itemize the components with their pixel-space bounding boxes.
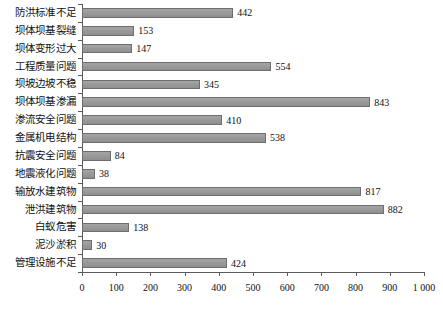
- bar-value-label: 817: [365, 184, 380, 199]
- bar: [82, 115, 222, 125]
- x-axis-tick: [150, 272, 151, 276]
- x-axis-tick: [82, 272, 83, 276]
- bar: [82, 187, 361, 197]
- bar-value-label: 442: [237, 5, 252, 20]
- x-axis-tick-label: 900: [382, 281, 397, 295]
- bar: [82, 240, 92, 250]
- y-axis-tick: [78, 165, 82, 166]
- category-label: 白蚁危害: [0, 218, 76, 236]
- bar-row: 泥沙淤积30: [0, 236, 443, 254]
- x-axis-tick-label: 500: [246, 281, 261, 295]
- x-axis-tick-label: 100: [109, 281, 124, 295]
- category-label: 工程质量问题: [0, 58, 76, 76]
- category-label: 抗震安全问题: [0, 147, 76, 165]
- bar-row: 输放水建筑物817: [0, 183, 443, 201]
- category-label: 管理设施不足: [0, 254, 76, 272]
- y-axis-tick: [78, 111, 82, 112]
- bar-value-label: 882: [388, 202, 403, 217]
- category-label: 泥沙淤积: [0, 236, 76, 254]
- x-axis-tick-label: 600: [280, 281, 295, 295]
- x-axis-tick: [390, 272, 391, 276]
- bar-row: 抗震安全问题84: [0, 147, 443, 165]
- bar: [82, 133, 266, 143]
- y-axis-tick: [78, 75, 82, 76]
- bar-value-label: 30: [96, 238, 106, 253]
- x-axis-tick: [253, 272, 254, 276]
- bar: [82, 223, 129, 233]
- x-axis-tick: [287, 272, 288, 276]
- y-axis-tick: [78, 22, 82, 23]
- y-axis-tick: [78, 254, 82, 255]
- bar: [82, 169, 95, 179]
- x-axis-tick-label: 300: [177, 281, 192, 295]
- bar-value-label: 138: [133, 220, 148, 235]
- bar: [82, 8, 233, 18]
- bar-rows: 防洪标准不足442坝体坝基裂缝153坝体变形过大147工程质量问题554坝坡边坡…: [0, 0, 443, 272]
- x-axis-tick: [321, 272, 322, 276]
- y-axis-tick: [78, 93, 82, 94]
- category-label: 渗流安全问题: [0, 111, 76, 129]
- x-axis-tick: [185, 272, 186, 276]
- bar-row: 坝体变形过大147: [0, 40, 443, 58]
- bar-value-label: 554: [275, 59, 290, 74]
- category-label: 坝体坝基裂缝: [0, 22, 76, 40]
- bar-row: 管理设施不足424: [0, 254, 443, 272]
- bar: [82, 26, 134, 36]
- bar-value-label: 38: [99, 166, 109, 181]
- x-axis-tick-label: 1 000: [413, 281, 436, 295]
- bar: [82, 97, 370, 107]
- category-label: 金属机电结构: [0, 129, 76, 147]
- y-axis-tick: [78, 218, 82, 219]
- bar-row: 渗流安全问题410: [0, 111, 443, 129]
- bar: [82, 44, 132, 54]
- bar-row: 坝坡边坡不稳345: [0, 75, 443, 93]
- y-axis-tick: [78, 236, 82, 237]
- bar-row: 防洪标准不足442: [0, 4, 443, 22]
- bar-row: 泄洪建筑物882: [0, 201, 443, 219]
- x-axis-tick: [116, 272, 117, 276]
- category-label: 地震液化问题: [0, 165, 76, 183]
- x-axis-tick: [219, 272, 220, 276]
- bar: [82, 258, 227, 268]
- x-axis-tick-label: 700: [314, 281, 329, 295]
- bar-row: 金属机电结构538: [0, 129, 443, 147]
- category-label: 泄洪建筑物: [0, 201, 76, 219]
- bar-value-label: 147: [136, 41, 151, 56]
- bar: [82, 205, 384, 215]
- x-axis-tick-label: 400: [211, 281, 226, 295]
- bar-row: 工程质量问题554: [0, 58, 443, 76]
- category-label: 坝体坝基渗漏: [0, 93, 76, 111]
- x-axis-tick-label: 0: [80, 281, 85, 295]
- bar: [82, 151, 111, 161]
- bar: [82, 80, 200, 90]
- y-axis-tick: [78, 40, 82, 41]
- category-label: 坝体变形过大: [0, 40, 76, 58]
- bar-value-label: 538: [270, 130, 285, 145]
- bar-row: 地震液化问题38: [0, 165, 443, 183]
- bar-value-label: 424: [231, 256, 246, 271]
- bar-row: 坝体坝基渗漏843: [0, 93, 443, 111]
- bar-value-label: 153: [138, 23, 153, 38]
- bar-value-label: 345: [204, 77, 219, 92]
- category-label: 坝坡边坡不稳: [0, 75, 76, 93]
- x-axis-tick-label: 800: [348, 281, 363, 295]
- bar-row: 坝体坝基裂缝153: [0, 22, 443, 40]
- bar-row: 白蚁危害138: [0, 218, 443, 236]
- x-axis-tick-label: 200: [143, 281, 158, 295]
- y-axis-tick: [78, 201, 82, 202]
- bar-chart: 防洪标准不足442坝体坝基裂缝153坝体变形过大147工程质量问题554坝坡边坡…: [0, 0, 443, 314]
- bar-value-label: 410: [226, 113, 241, 128]
- y-axis-tick: [78, 58, 82, 59]
- x-axis-tick: [356, 272, 357, 276]
- bar-value-label: 843: [374, 95, 389, 110]
- bar-value-label: 84: [115, 148, 125, 163]
- bar: [82, 62, 271, 72]
- y-axis-tick: [78, 147, 82, 148]
- category-label: 输放水建筑物: [0, 183, 76, 201]
- y-axis-tick: [78, 183, 82, 184]
- x-axis-tick: [424, 272, 425, 276]
- y-axis-tick: [78, 129, 82, 130]
- category-label: 防洪标准不足: [0, 4, 76, 22]
- y-axis-tick: [78, 4, 82, 5]
